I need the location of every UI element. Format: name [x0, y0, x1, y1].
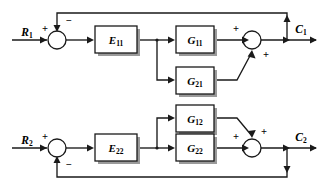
wire-branch-to-g21: [157, 40, 173, 80]
arrowhead-g12-input: [168, 115, 175, 122]
sign-c2-plus-top: +: [261, 126, 267, 137]
takeoff-dot-e22: [155, 146, 158, 149]
block-g12: G12: [176, 105, 217, 135]
block-diagram-canvas: E11 E22 G11 G21 G12: [0, 0, 327, 194]
arrowhead-sum-r1-input: [40, 37, 47, 44]
summing-junctions-group: [48, 31, 261, 157]
control-system-block-diagram: E11 E22 G11 G21 G12: [0, 0, 327, 194]
block-e11: E11: [95, 26, 140, 56]
arrowhead-feedback1-up: [284, 15, 291, 22]
wire-g21-cross-to-sum-c2: [214, 52, 252, 80]
arrowhead-e22-input: [87, 145, 94, 152]
arrowhead-g11-input: [168, 37, 175, 44]
sign-r1-minus: −: [66, 15, 72, 26]
sign-symbols-group: + − + + + − + +: [42, 15, 269, 170]
sign-r2-minus: −: [66, 159, 72, 170]
block-g22: G22: [176, 134, 217, 164]
block-g11: G11: [176, 26, 217, 56]
sign-c1-plus-bottom: +: [263, 49, 269, 60]
label-input-r1: R1: [20, 26, 33, 40]
blocks-group: E11 E22 G11 G21 G12: [95, 26, 217, 164]
takeoff-dot-e11: [155, 38, 158, 41]
arrowhead-e11-input: [87, 37, 94, 44]
sign-r1-plus: +: [42, 23, 48, 34]
block-e22: E22: [95, 134, 140, 164]
wire-branch-to-g12: [157, 118, 173, 148]
label-input-r2: R2: [20, 134, 33, 148]
summing-junction-r1: [48, 31, 66, 49]
arrowhead-c2-output: [310, 145, 317, 152]
arrowhead-c1-output: [310, 37, 317, 44]
arrowhead-feedback2-down: [284, 166, 291, 173]
arrowhead-g22-input: [168, 145, 175, 152]
sign-c2-plus-left: +: [233, 131, 239, 142]
label-output-c2: C2: [295, 131, 307, 145]
arrowhead-g21-input: [168, 77, 175, 84]
arrowhead-sum-r2-input: [40, 145, 47, 152]
arrowhead-g21-cross-into-sum-c2: [248, 130, 256, 138]
sign-c1-plus-left: +: [233, 23, 239, 34]
summing-junction-r2: [48, 139, 66, 157]
label-output-c1: C1: [295, 23, 307, 37]
block-g21: G21: [176, 67, 217, 97]
sign-r2-plus: +: [42, 131, 48, 142]
